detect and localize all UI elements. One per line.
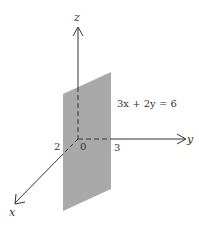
x-intercept-label: 2: [54, 141, 60, 152]
origin-label: 0: [80, 141, 86, 152]
plane-3x-2y-6: [63, 72, 111, 211]
diagram-canvas: z y x 2 0 3 3x + 2y = 6: [0, 0, 199, 225]
x-arrow-icon: [15, 194, 25, 204]
x-axis: [15, 154, 63, 203]
y-intercept-label: 3: [114, 142, 120, 153]
y-axis-label: y: [186, 133, 194, 146]
x-axis-label: x: [9, 206, 16, 219]
plane-equation-label: 3x + 2y = 6: [117, 98, 177, 109]
z-axis-label: z: [73, 11, 80, 24]
